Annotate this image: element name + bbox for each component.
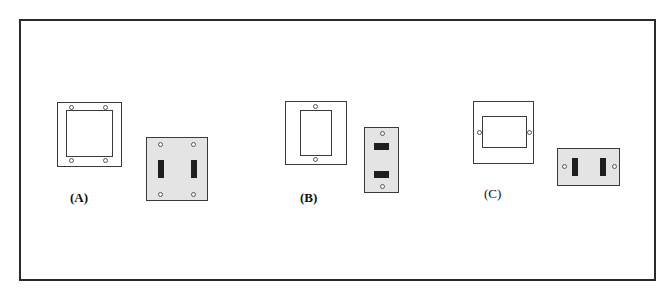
toggle-switch-icon: [191, 160, 197, 178]
cover-opening-b: [300, 110, 332, 156]
toggle-switch-icon: [572, 158, 578, 176]
cover-frame-b: [285, 101, 347, 165]
screw-icon: [69, 158, 74, 163]
screw-icon: [562, 164, 567, 169]
toggle-switch-icon: [374, 143, 389, 150]
switch-plate-a: [146, 137, 208, 201]
screw-icon: [103, 158, 108, 163]
screw-icon: [103, 105, 108, 110]
panel-label-c: (C): [484, 186, 501, 202]
screw-icon: [158, 142, 163, 147]
screw-icon: [191, 142, 196, 147]
screw-icon: [380, 131, 385, 136]
screw-icon: [191, 192, 196, 197]
screw-icon: [158, 192, 163, 197]
cover-opening-a: [66, 110, 113, 157]
toggle-switch-icon: [600, 158, 606, 176]
screw-icon: [477, 130, 482, 135]
screw-icon: [313, 104, 318, 109]
cover-opening-c: [482, 116, 527, 148]
screw-icon: [527, 130, 532, 135]
screw-icon: [380, 184, 385, 189]
switch-plate-b: [364, 127, 399, 193]
panel-label-b: (B): [300, 190, 317, 206]
cover-frame-c: [473, 101, 534, 164]
switch-plate-c: [557, 148, 620, 186]
toggle-switch-icon: [374, 171, 389, 178]
cover-frame-a: [57, 102, 122, 167]
panel-label-a: (A): [70, 190, 88, 206]
screw-icon: [313, 157, 318, 162]
screw-icon: [69, 105, 74, 110]
toggle-switch-icon: [158, 160, 164, 178]
screw-icon: [612, 164, 617, 169]
